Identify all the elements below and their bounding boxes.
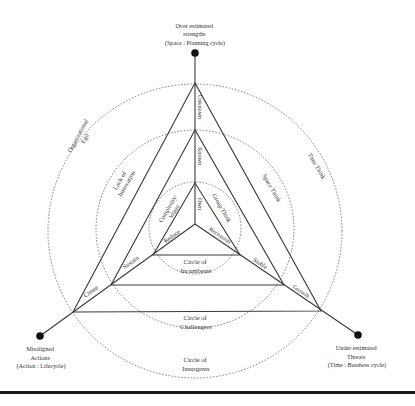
right-vertex-label-line3: (Time : Business cycle)	[328, 361, 386, 369]
own-label: Own	[197, 198, 204, 210]
right-vertex-label: Under estimated Threats (Time : Business…	[328, 344, 386, 369]
right-vertex-label-line1: Under estimated	[336, 344, 378, 351]
challengers-line1: Circle of	[184, 314, 208, 321]
page-separator-rule	[0, 391, 415, 394]
lack-of-innovation-label: Lack of Innovation	[110, 165, 137, 198]
space-think-label: Space Think	[261, 173, 283, 204]
complexity-waste-label: Complexity/ Waste	[157, 192, 185, 227]
top-vertex-label-line2: strengths	[183, 30, 206, 37]
incumbents-line2: Incumbents	[181, 267, 212, 274]
known-label: Known	[197, 147, 204, 165]
top-vertex-dot	[191, 49, 199, 57]
create-label: Create	[82, 283, 99, 298]
left-vertex-dot	[36, 332, 44, 340]
top-vertex-label-line1: Over estimated	[175, 22, 214, 29]
circle-of-challengers-label: Circle of Challengers	[180, 314, 212, 330]
right-vertex-label-line2: Threats	[347, 353, 366, 360]
challengers-line2: Challengers	[180, 323, 212, 330]
circle-of-incumbents-label: Circle of Incumbents	[181, 258, 212, 274]
group-think-label: Group Think	[211, 192, 234, 224]
organizational-ego-label: Organizational Ego	[66, 116, 97, 157]
insurgents-line2: Insurgents	[182, 365, 210, 372]
time-think-label: Time Think	[307, 151, 328, 180]
left-vertex-label-line3: (Action : Lifecycle)	[16, 362, 65, 370]
top-vertex-label-line3: (Space : Planning cycle)	[165, 39, 225, 47]
strategy-triangle-diagram: Over estimated strengths (Space : Planni…	[0, 0, 415, 406]
left-spoke	[40, 224, 195, 336]
right-vertex-dot	[354, 331, 362, 339]
top-vertex-label: Over estimated strengths (Space : Planni…	[165, 22, 225, 47]
unknown-label: Unknown	[197, 95, 204, 119]
left-vertex-label: Misaligned Actions (Action : Lifecycle)	[16, 345, 65, 370]
circle-of-insurgents-label: Circle of Insurgents	[182, 356, 210, 372]
sustain-label: Sustain	[121, 254, 140, 270]
insurgents-line1: Circle of	[184, 356, 208, 363]
incumbents-line1: Circle of	[184, 258, 208, 265]
left-vertex-label-line1: Misaligned	[26, 345, 55, 352]
left-vertex-label-line2: Actions	[31, 354, 51, 361]
